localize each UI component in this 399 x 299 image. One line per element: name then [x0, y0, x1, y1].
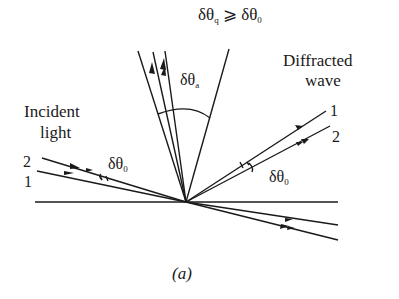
ray-out-1-label: 1 [330, 103, 338, 119]
ray-in-1-label: 1 [24, 174, 32, 190]
incident-angle-label: δθ0 [108, 156, 128, 174]
diffracted-ray-1 [186, 111, 326, 202]
ray-out-2-label: 2 [332, 129, 340, 145]
diffracted-angle-mark [240, 162, 249, 168]
incident-angle-text: δθ [108, 155, 123, 172]
diffracted-label-line2: wave [305, 72, 341, 89]
relation-rhs-sub: 0 [257, 15, 262, 25]
diffracted-label-line1: Diffracted [283, 52, 353, 69]
relation-lhs: δθ [198, 5, 214, 24]
ray-in-2-label: 2 [23, 154, 31, 170]
diagram-lines [0, 0, 399, 299]
incident-label-line2: light [40, 124, 71, 141]
diffracted-angle-label: δθ0 [269, 169, 289, 187]
cone-angle-label: δθa [180, 72, 199, 90]
diffraction-diagram: δθq ⩾ δθ0 Incident light Diffracted wave… [0, 0, 399, 299]
incident-ray-1 [37, 171, 186, 202]
relation-rhs: δθ [241, 5, 257, 24]
diffracted-ray-2 [186, 126, 330, 202]
incident-label-line1: Incident [24, 103, 80, 120]
incident-angle-sub: 0 [123, 164, 128, 174]
relation-label: δθq ⩾ δθ0 [198, 6, 262, 25]
cone-angle-text: δθ [180, 71, 195, 88]
diffracted-angle-text: δθ [269, 168, 284, 185]
relation-lhs-sub: q [214, 15, 219, 25]
diffracted-angle-sub: 0 [284, 177, 289, 187]
caption: (a) [172, 265, 192, 282]
cone-angle-sub: a [195, 80, 199, 90]
relation-op: ⩾ [223, 5, 237, 24]
